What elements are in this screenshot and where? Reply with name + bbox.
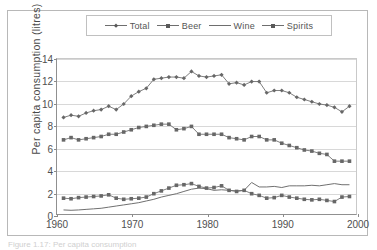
data-point bbox=[129, 128, 133, 132]
data-point bbox=[137, 90, 141, 94]
data-point bbox=[242, 189, 246, 193]
data-point bbox=[295, 146, 299, 150]
y-tick-label: 10 bbox=[42, 98, 53, 109]
data-point bbox=[92, 195, 96, 199]
data-point bbox=[76, 114, 80, 118]
data-point bbox=[287, 91, 291, 95]
square-marker-icon bbox=[262, 21, 284, 30]
data-point bbox=[348, 159, 352, 163]
series-total bbox=[61, 69, 351, 119]
data-point bbox=[99, 194, 103, 198]
data-point bbox=[287, 195, 291, 199]
x-tick-mark bbox=[358, 214, 359, 217]
data-point bbox=[242, 83, 246, 87]
data-point bbox=[190, 125, 194, 129]
y-axis-label: Per capita consumption (litres) bbox=[30, 0, 42, 159]
legend-entry-wine[interactable]: Wine bbox=[209, 21, 255, 31]
data-point bbox=[340, 195, 344, 199]
data-point bbox=[212, 74, 216, 78]
data-point bbox=[84, 137, 88, 141]
series-spirits bbox=[62, 182, 352, 204]
legend-label: Total bbox=[130, 21, 150, 31]
legend-entry-spirits[interactable]: Spirits bbox=[262, 21, 313, 31]
data-point bbox=[272, 138, 276, 142]
data-point bbox=[145, 125, 149, 129]
chart-frame: TotalBeerWineSpirits Per capita consumpt… bbox=[7, 10, 368, 236]
x-tick-label: 1980 bbox=[196, 219, 218, 230]
legend-entry-total[interactable]: Total bbox=[105, 21, 150, 31]
data-point bbox=[250, 135, 254, 139]
data-point bbox=[160, 122, 164, 126]
data-point bbox=[152, 192, 156, 196]
data-point bbox=[159, 76, 163, 80]
data-point bbox=[114, 132, 118, 136]
data-point bbox=[333, 200, 337, 204]
data-point bbox=[265, 138, 269, 142]
data-point bbox=[318, 152, 322, 156]
x-tick-label: 1970 bbox=[121, 219, 143, 230]
data-point bbox=[287, 144, 291, 148]
data-point bbox=[250, 79, 254, 83]
y-tick-label: 2 bbox=[47, 188, 53, 199]
data-point bbox=[197, 185, 201, 189]
data-point bbox=[280, 194, 284, 198]
data-point bbox=[174, 75, 178, 79]
y-tick-label: 4 bbox=[47, 166, 53, 177]
series-beer bbox=[62, 122, 352, 163]
data-point bbox=[212, 186, 216, 190]
data-point bbox=[257, 194, 261, 198]
data-point bbox=[318, 198, 322, 202]
data-point bbox=[152, 123, 156, 127]
y-tick-label: 6 bbox=[47, 143, 53, 154]
data-point bbox=[99, 107, 103, 111]
data-point bbox=[69, 113, 73, 117]
data-point bbox=[310, 149, 314, 153]
data-point bbox=[227, 136, 231, 140]
data-point bbox=[62, 138, 66, 142]
data-point bbox=[227, 189, 231, 193]
data-point bbox=[205, 132, 209, 136]
data-point bbox=[325, 199, 329, 203]
data-point bbox=[197, 74, 201, 78]
data-point bbox=[303, 148, 307, 152]
data-point bbox=[182, 183, 186, 187]
data-point bbox=[295, 95, 299, 99]
series-layer bbox=[56, 58, 357, 215]
chart-legend: TotalBeerWineSpirits bbox=[86, 15, 332, 36]
x-tick-label: 1960 bbox=[46, 219, 68, 230]
data-point bbox=[137, 126, 141, 130]
data-point bbox=[145, 195, 149, 199]
data-point bbox=[84, 195, 88, 199]
legend-label: Wine bbox=[234, 21, 255, 31]
data-point bbox=[107, 193, 111, 197]
square-marker-icon bbox=[157, 21, 179, 30]
data-point bbox=[235, 190, 239, 194]
data-point bbox=[61, 115, 65, 119]
data-point bbox=[265, 196, 269, 200]
data-point bbox=[77, 196, 81, 200]
data-point bbox=[317, 102, 321, 106]
data-point bbox=[92, 109, 96, 113]
data-point bbox=[205, 186, 209, 190]
data-point bbox=[242, 138, 246, 142]
data-point bbox=[167, 75, 171, 79]
data-point bbox=[310, 100, 314, 104]
data-point bbox=[122, 198, 126, 202]
data-point bbox=[295, 196, 299, 200]
legend-entry-beer[interactable]: Beer bbox=[157, 21, 202, 31]
figure-caption: Figure 1.17: Per capita consumption bbox=[8, 240, 308, 250]
data-point bbox=[212, 132, 216, 136]
data-point bbox=[99, 135, 103, 139]
legend-label: Beer bbox=[182, 21, 202, 31]
data-point bbox=[137, 196, 141, 200]
legend-label: Spirits bbox=[287, 21, 313, 31]
data-point bbox=[250, 192, 254, 196]
data-point bbox=[257, 135, 261, 139]
data-point bbox=[220, 184, 224, 188]
data-point bbox=[197, 132, 201, 136]
x-tick-label: 1990 bbox=[272, 219, 294, 230]
y-tick-label: 8 bbox=[47, 121, 53, 132]
data-point bbox=[332, 105, 336, 109]
data-point bbox=[280, 141, 284, 145]
line-only-marker-icon bbox=[209, 21, 231, 30]
